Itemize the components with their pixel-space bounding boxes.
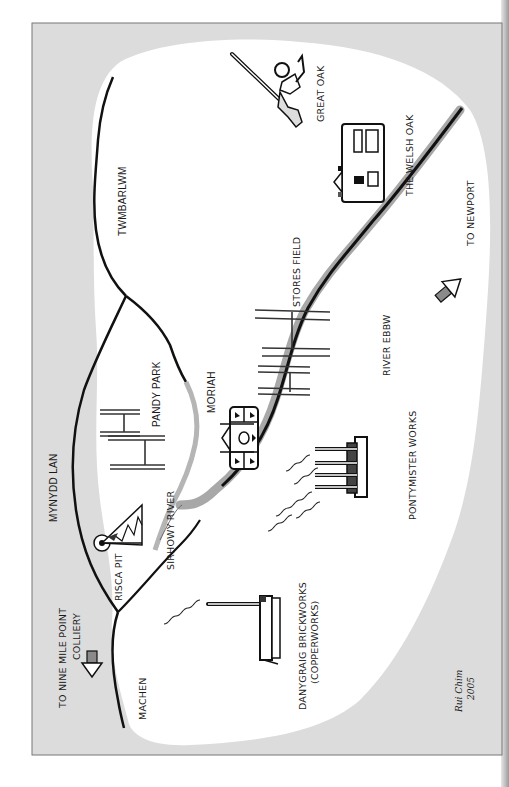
label-twmbarlwm: TWMBARLWM	[117, 166, 128, 236]
label-colliery: COLLIERY	[71, 613, 82, 660]
label-to-newport: TO NEWPORT	[465, 180, 476, 247]
label-moriah: MORIAH	[206, 371, 217, 413]
artist-signature: Rui Chim	[454, 670, 464, 713]
label-great-oak: GREAT OAK	[315, 65, 326, 122]
label-danygraig-brickworks: DANYGRAIG BRICKWORKS	[297, 582, 308, 710]
label-pontymister-works: PONTYMISTER WORKS	[407, 410, 418, 520]
artist-signature-year: 2005	[466, 677, 476, 701]
label-river-ebbw: RIVER EBBW	[381, 314, 392, 376]
map-page: GREAT OAK THE WELSH OAK TWMBARLWM TO NEW…	[0, 0, 509, 787]
label-stores-field: STORES FIELD	[291, 237, 302, 307]
illustrated-map: GREAT OAK THE WELSH OAK TWMBARLWM TO NEW…	[0, 0, 509, 787]
label-risca-pit: RISCA PIT	[113, 553, 124, 601]
label-to-nine-mile-point: TO NINE MILE POINT	[57, 608, 68, 709]
pub-building-icon	[334, 124, 384, 202]
label-sirhowy-river: SIRHOWY RIVER	[165, 490, 176, 570]
label-mynydd-lan: MYNYDD LAN	[48, 453, 59, 522]
label-machen: MACHEN	[137, 677, 148, 720]
label-copperworks: (COPPERWORKS)	[309, 600, 320, 684]
label-pandy-park: PANDY PARK	[151, 361, 162, 427]
label-welsh-oak: THE WELSH OAK	[404, 114, 415, 197]
